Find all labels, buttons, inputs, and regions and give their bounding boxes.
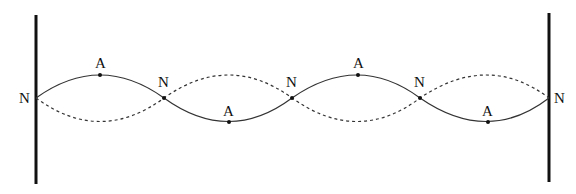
node-dot: [418, 96, 422, 100]
node-label: N: [19, 90, 30, 106]
node-label: N: [414, 74, 425, 90]
node-label: N: [286, 74, 297, 90]
antinode-label: A: [223, 103, 234, 119]
node-dot: [162, 96, 166, 100]
node-label: N: [158, 74, 169, 90]
standing-wave-diagram: NNNNNAAAA: [0, 0, 576, 194]
antinode-dot: [356, 73, 360, 77]
antinode-dot: [486, 120, 490, 124]
antinode-label: A: [95, 55, 106, 71]
node-dot: [290, 96, 294, 100]
antinode-dot: [98, 73, 102, 77]
node-label: N: [554, 90, 565, 106]
antinode-dot: [227, 120, 231, 124]
antinode-label: A: [353, 55, 364, 71]
antinode-label: A: [482, 103, 493, 119]
